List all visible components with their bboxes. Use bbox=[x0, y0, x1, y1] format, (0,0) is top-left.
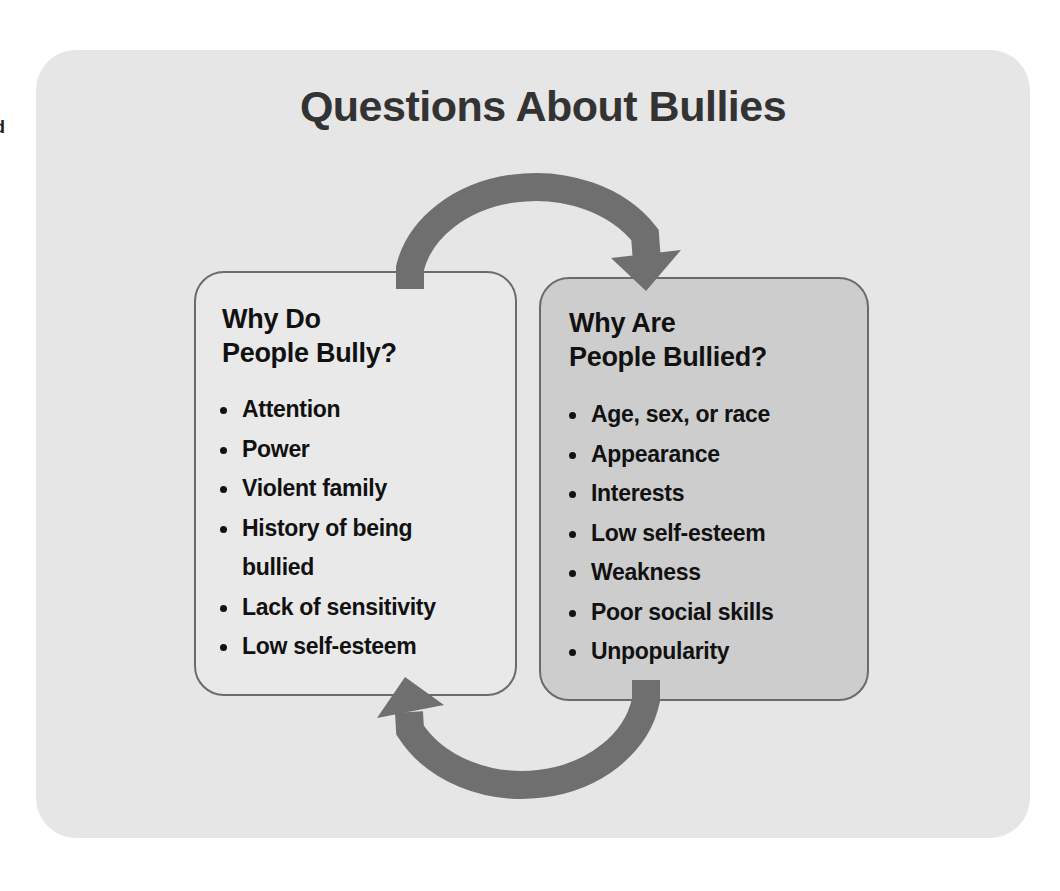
cycle-arrows bbox=[0, 0, 1060, 891]
bottom-curved-arrow-icon bbox=[377, 677, 646, 785]
top-curved-arrow-icon bbox=[410, 187, 681, 291]
